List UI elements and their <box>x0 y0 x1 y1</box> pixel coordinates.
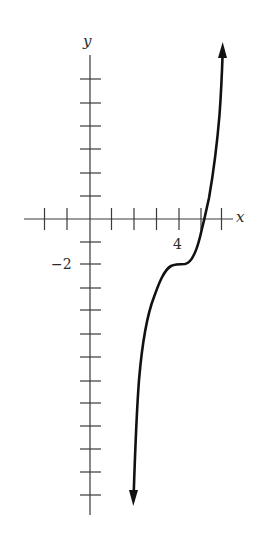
graph-canvas <box>0 0 259 541</box>
arrow-down-icon <box>129 490 138 506</box>
x-axis-label: x <box>236 210 244 225</box>
x-tick-label-4: 4 <box>173 237 182 251</box>
cubic-curve <box>134 52 223 500</box>
arrow-up-icon <box>218 42 227 58</box>
y-tick-label-neg2: −2 <box>51 257 72 271</box>
y-axis-label: y <box>83 34 91 49</box>
